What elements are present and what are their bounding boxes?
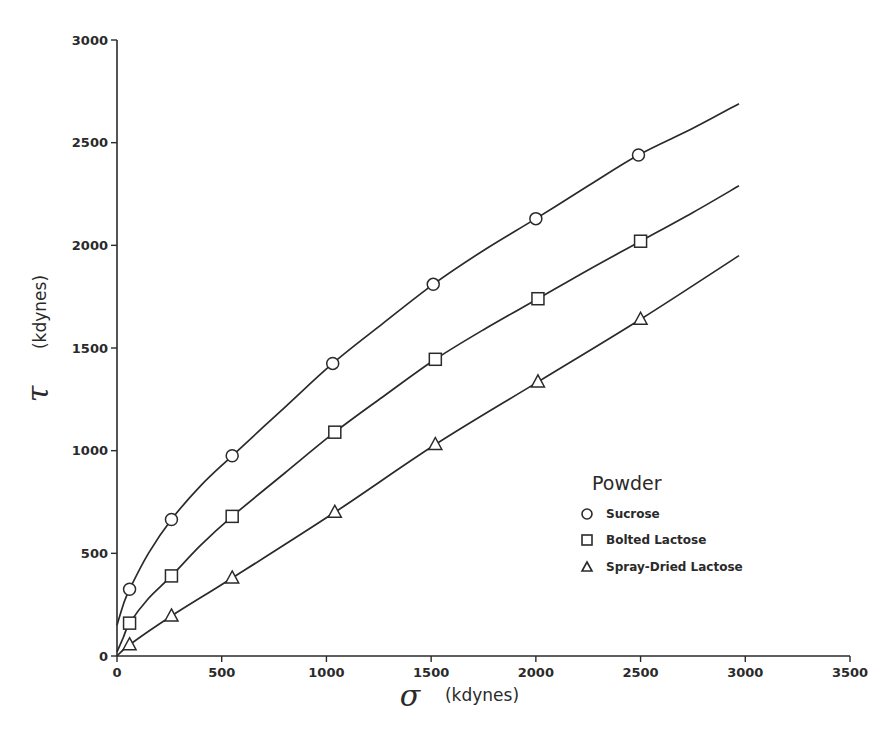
triangle-marker-icon — [328, 505, 341, 517]
legend: Powder Sucrose Bolted Lactose Spray-Drie… — [582, 472, 743, 574]
circle-marker-icon — [327, 357, 339, 369]
x-tick-label: 3000 — [727, 665, 763, 680]
legend-label: Spray-Dried Lactose — [606, 560, 743, 574]
legend-item-spray-dried-lactose: Spray-Dried Lactose — [582, 560, 743, 574]
square-marker-icon — [226, 510, 238, 522]
triangle-marker-icon — [123, 638, 136, 650]
circle-marker-icon — [427, 278, 439, 290]
circle-marker-icon — [530, 213, 542, 225]
shear-stress-chart: 0500100015002000250030000500100015002000… — [0, 0, 892, 732]
legend-label: Sucrose — [606, 507, 660, 521]
square-marker-icon — [329, 426, 341, 438]
square-marker-icon — [635, 235, 647, 247]
circle-marker-icon — [165, 513, 177, 525]
axes: 0500100015002000250030000500100015002000… — [72, 33, 868, 681]
x-axis-unit: (kdynes) — [445, 685, 519, 705]
square-marker-icon — [532, 293, 544, 305]
x-tick-label: 500 — [208, 665, 235, 680]
legend-item-bolted-lactose: Bolted Lactose — [582, 533, 706, 547]
circle-marker-icon — [124, 583, 136, 595]
x-tick-label: 2000 — [518, 665, 554, 680]
legend-label: Bolted Lactose — [606, 533, 706, 547]
x-tick-label: 2500 — [622, 665, 658, 680]
x-tick-label: 1000 — [308, 665, 344, 680]
circle-marker-icon — [582, 509, 592, 519]
curve-bolted-lactose — [117, 186, 739, 652]
y-axis-unit: (kdynes) — [30, 275, 50, 349]
triangle-marker-icon — [429, 438, 442, 450]
y-axis-symbol: τ — [20, 385, 55, 402]
x-axis-symbol: σ — [400, 678, 422, 713]
square-marker-icon — [124, 617, 136, 629]
x-axis-label: σ (kdynes) — [400, 678, 519, 713]
x-tick-label: 3500 — [832, 665, 868, 680]
y-tick-label: 2500 — [72, 135, 108, 150]
series-markers — [123, 149, 647, 650]
legend-item-sucrose: Sucrose — [582, 507, 660, 521]
x-tick-label: 0 — [112, 665, 121, 680]
y-tick-label: 1500 — [72, 341, 108, 356]
y-tick-label: 3000 — [72, 33, 108, 48]
triangle-marker-icon — [226, 571, 239, 583]
circle-marker-icon — [632, 149, 644, 161]
square-marker-icon — [165, 570, 177, 582]
square-marker-icon — [582, 535, 592, 545]
legend-title: Powder — [592, 472, 662, 494]
circle-marker-icon — [226, 450, 238, 462]
curve-spray-dried-lactose — [117, 256, 739, 656]
y-axis-label: τ (kdynes) — [20, 275, 55, 402]
triangle-marker-icon — [582, 562, 592, 571]
y-tick-label: 2000 — [72, 238, 108, 253]
triangle-marker-icon — [634, 312, 647, 324]
triangle-marker-icon — [165, 609, 178, 621]
y-tick-label: 1000 — [72, 443, 108, 458]
y-tick-label: 0 — [99, 649, 108, 664]
triangle-marker-icon — [531, 375, 544, 387]
square-marker-icon — [429, 353, 441, 365]
y-tick-label: 500 — [81, 546, 108, 561]
